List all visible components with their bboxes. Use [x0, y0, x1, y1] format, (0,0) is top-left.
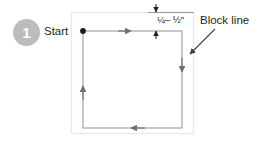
start-label: Start — [44, 26, 68, 38]
step-number-badge: 1 — [13, 19, 40, 46]
figure-canvas: 1 Start ¼– ½" Block line — [0, 0, 258, 146]
stitch-line-path — [83, 31, 182, 128]
dimension-label: ¼– ½" — [157, 15, 184, 25]
block-line-label: Block line — [200, 15, 249, 27]
start-point-dot — [80, 28, 86, 34]
